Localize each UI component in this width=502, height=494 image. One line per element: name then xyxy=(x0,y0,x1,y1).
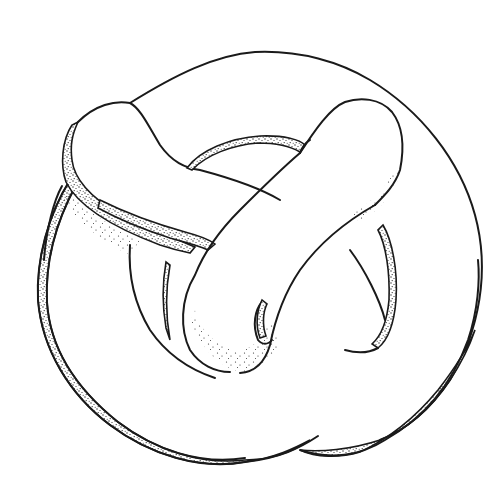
left-inner-strand xyxy=(130,245,215,378)
knot-illustration: Knotted tube illustration xyxy=(0,0,502,494)
inner-hole xyxy=(190,300,280,372)
left-lobe xyxy=(44,102,280,260)
right-ring xyxy=(300,225,479,456)
knot-drawing xyxy=(0,0,502,494)
